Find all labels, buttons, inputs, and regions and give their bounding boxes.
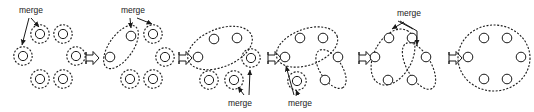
node-p5-n2 [407, 33, 417, 43]
node-p6-n5 [479, 74, 489, 84]
node-p2-n1 [126, 31, 136, 41]
merge-arrow-5c [392, 22, 404, 29]
panel-4: merge [271, 19, 352, 108]
merge-arrow-5b [398, 21, 413, 29]
node-p5-n4 [421, 52, 431, 62]
node-p3-n3 [193, 52, 203, 62]
node-p2-n2 [105, 52, 115, 62]
transition-arrow-5 [449, 52, 462, 65]
node-p5-n1 [384, 33, 394, 43]
node-p6-n2 [502, 33, 512, 43]
node-p3-n1 [209, 34, 219, 44]
node-p1-n1 [31, 25, 49, 43]
merge-arrow-3a [249, 70, 250, 95]
node-p3-n2 [232, 33, 242, 43]
cluster-ellipse-p5-e2 [396, 37, 443, 94]
node-p5-n6 [407, 75, 417, 85]
panel-5: merge [362, 8, 442, 94]
transition-arrow-1 [86, 52, 99, 65]
merge-arrow-3b [238, 87, 244, 95]
node-p1-n4 [67, 47, 85, 65]
node-p2-n5 [121, 70, 139, 88]
node-p3-n4 [242, 49, 260, 67]
node-p2-n4 [156, 48, 174, 66]
panel-1: merge [14, 5, 85, 88]
cluster-ellipse-p3-e1 [181, 18, 258, 79]
node-p5-n5 [383, 75, 393, 85]
node-p6-n4 [516, 52, 526, 62]
merge-label-1: merge [19, 5, 43, 15]
node-p1-n5 [31, 70, 49, 88]
node-p4-n3 [280, 52, 290, 62]
node-p4-n5 [320, 75, 330, 85]
node-p4-n2 [318, 33, 328, 43]
merge-arrow-2a [130, 18, 131, 28]
clustering-progression-figure: merge [0, 0, 534, 112]
node-p6-n3 [463, 52, 473, 62]
transition-arrow-2 [179, 52, 192, 65]
node-p2-n6 [144, 70, 162, 88]
merge-label-5: merge [397, 8, 421, 18]
diagram-canvas: merge [0, 0, 534, 112]
merge-label-3: merge [228, 98, 252, 108]
merge-label-2: merge [121, 5, 145, 15]
panel-2: merge [97, 5, 174, 88]
merge-label-4: merge [288, 98, 312, 108]
merge-arrow-1a [31, 18, 39, 27]
node-p4-n1 [295, 33, 305, 43]
node-p1-n2 [54, 25, 72, 43]
node-p1-n6 [54, 70, 72, 88]
node-p2-n3 [144, 25, 162, 43]
merge-arrow-4b [296, 90, 298, 95]
node-p5-n3 [370, 52, 380, 62]
panel-6 [458, 25, 530, 91]
cluster-ellipse-p4-e1 [271, 19, 343, 75]
node-p1-n3 [14, 47, 32, 65]
node-p3-n6 [225, 71, 243, 89]
node-p6-n1 [479, 33, 489, 43]
node-p4-n4 [333, 52, 343, 62]
cluster-ellipse-p2-e1 [97, 20, 145, 75]
cluster-ellipse-p4-e2 [310, 45, 352, 94]
node-p6-n6 [502, 74, 512, 84]
merge-arrow-2b [137, 18, 152, 24]
node-p3-n5 [200, 71, 218, 89]
transition-arrow-3 [268, 52, 281, 65]
panel-3: merge [181, 18, 260, 109]
merge-arrow-1b [22, 18, 29, 45]
